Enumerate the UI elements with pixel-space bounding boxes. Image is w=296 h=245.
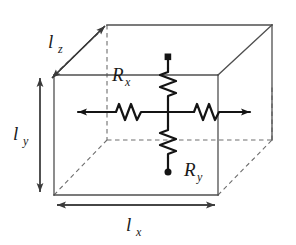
hidden-edge-depth-bottom-right: [218, 140, 272, 195]
figure-container: l z l y l x: [0, 0, 296, 245]
resistor-ry-bottom: [160, 126, 176, 158]
hidden-edge-depth-bottom-left: [54, 140, 107, 195]
lx-label-subscript: x: [135, 225, 142, 239]
cuboid-resistor-network-diagram: l z l y l x: [0, 0, 296, 245]
ly-label: l: [13, 123, 18, 144]
lz-label: l: [48, 31, 53, 52]
resistor-rx-left: [112, 104, 145, 120]
edge-depth-top-right: [218, 25, 272, 75]
circuit-horizontal-branch: [78, 104, 250, 120]
box-visible-edges: [54, 25, 272, 195]
dimension-lz: l z: [48, 26, 105, 78]
dimension-lx: l x: [57, 205, 215, 239]
circuit-vertical-branch: [160, 57, 176, 170]
dimension-ly: l y: [13, 78, 40, 192]
ry-label: R: [183, 159, 196, 180]
terminal-dot-bottom: [165, 169, 172, 176]
rx-label-subscript: x: [124, 75, 131, 89]
resistor-ry-top: [160, 68, 176, 100]
terminal-dot-top: [165, 54, 172, 61]
ly-label-subscript: y: [22, 134, 29, 148]
box-hidden-edges: [54, 25, 272, 195]
lz-label-subscript: z: [57, 42, 63, 56]
rx-label: R: [111, 64, 124, 85]
ry-label-subscript: y: [196, 170, 203, 184]
lx-label: l: [126, 214, 131, 235]
